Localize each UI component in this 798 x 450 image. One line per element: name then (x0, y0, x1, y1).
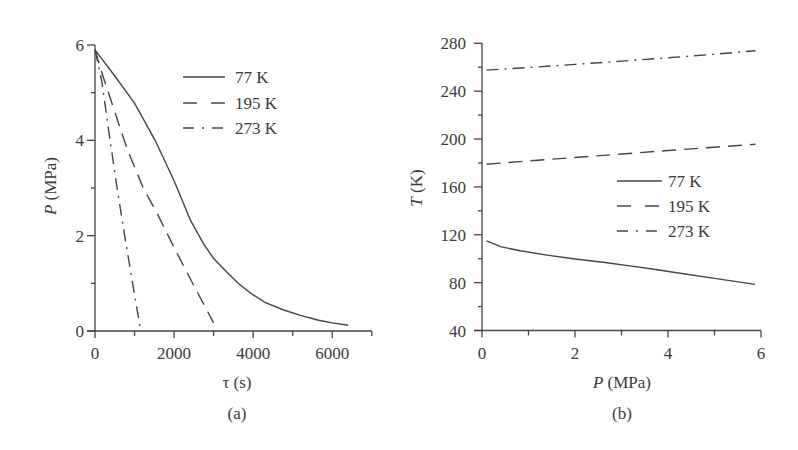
legend-label: 77 K (235, 68, 269, 87)
x-tick-label: 0 (478, 344, 487, 363)
x-tick-label: 6 (757, 344, 766, 363)
legend-label: 77 K (668, 172, 702, 191)
series-line-273k (487, 51, 756, 70)
series-line-77k (487, 241, 755, 285)
y-tick-label: 40 (449, 322, 466, 341)
y-tick-label: 120 (441, 226, 467, 245)
legend-label: 273 K (668, 222, 711, 241)
panel-caption: (a) (228, 404, 247, 423)
y-tick-label: 160 (441, 178, 467, 197)
series-line-273k (95, 50, 140, 327)
legend-label: 273 K (235, 119, 278, 138)
y-tick-label: 6 (76, 36, 85, 55)
x-tick-label: 2000 (157, 344, 191, 363)
y-tick-label: 240 (441, 82, 467, 101)
y-tick-label: 80 (449, 274, 466, 293)
x-axis-label: P (MPa) (592, 373, 651, 392)
figure: 02460200040006000τ (s)P (MPa)(a)77 K195 … (0, 0, 798, 450)
x-tick-label: 0 (91, 344, 100, 363)
legend-label: 195 K (235, 94, 278, 113)
x-tick-label: 4000 (236, 344, 270, 363)
x-tick-label: 4 (664, 344, 673, 363)
y-tick-label: 2 (76, 227, 85, 246)
chart-panel-b: 40801201602002402800246P (MPa)T (K)(b)77… (407, 34, 765, 423)
y-tick-label: 4 (76, 131, 85, 150)
y-tick-label: 0 (76, 322, 85, 341)
series-line-195k (95, 50, 214, 323)
legend: 77 K195 K273 K (183, 68, 278, 138)
series-line-195k (487, 144, 756, 164)
x-axis-label: τ (s) (222, 373, 251, 392)
y-tick-label: 200 (441, 130, 467, 149)
y-axis-label: P (MPa) (41, 157, 60, 216)
y-tick-label: 280 (441, 34, 467, 53)
legend-label: 195 K (668, 197, 711, 216)
y-axis-label: T (K) (407, 169, 426, 206)
panel-caption: (b) (612, 404, 632, 423)
x-tick-label: 6000 (315, 344, 349, 363)
chart-panel-a: 02460200040006000τ (s)P (MPa)(a)77 K195 … (41, 36, 372, 423)
legend: 77 K195 K273 K (617, 172, 711, 241)
x-tick-label: 2 (571, 344, 580, 363)
